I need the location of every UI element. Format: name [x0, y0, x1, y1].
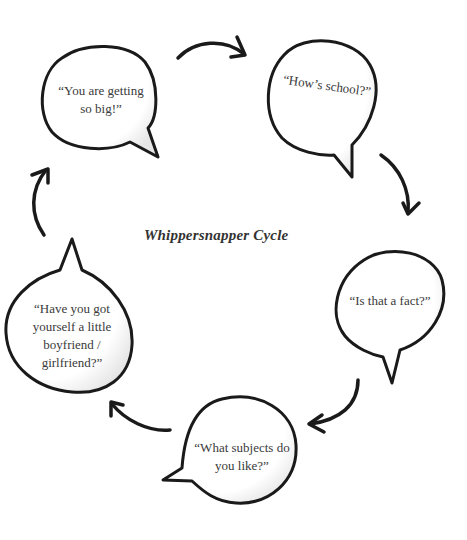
bubble-5-text: “Have you got yourself a little boyfrien…	[20, 300, 124, 372]
bubble-4-line-1: “What subjects do	[188, 439, 296, 457]
arrow-4-to-5	[111, 402, 170, 430]
bubble-4-line-2: you like?”	[188, 457, 296, 475]
bubble-4-text: “What subjects do you like?”	[188, 439, 296, 475]
arrow-5-to-1	[32, 169, 48, 235]
bubble-1-line-2: so big!”	[52, 100, 150, 118]
diagram-title: Whippersnapper Cycle	[144, 227, 288, 244]
bubble-5-line-4: girlfriend?”	[20, 354, 124, 372]
bubble-1-text: “You are getting so big!”	[52, 82, 150, 118]
whippersnapper-cycle-diagram: Whippersnapper Cycle “You are getting so…	[0, 0, 467, 540]
bubble-3-text: “Is that a fact?”	[340, 292, 440, 310]
bubble-1-line-1: “You are getting	[52, 82, 150, 100]
bubble-3-line-1: “Is that a fact?”	[340, 292, 440, 310]
bubble-5-line-2: yourself a little	[20, 318, 124, 336]
arrow-1-to-2	[178, 37, 245, 58]
bubble-5-line-3: boyfriend /	[20, 336, 124, 354]
speech-bubble-2	[268, 41, 376, 177]
bubble-5-line-1: “Have you got	[20, 300, 124, 318]
arrow-2-to-3	[381, 155, 419, 214]
arrow-3-to-4	[309, 380, 358, 432]
speech-bubble-3	[336, 251, 444, 383]
